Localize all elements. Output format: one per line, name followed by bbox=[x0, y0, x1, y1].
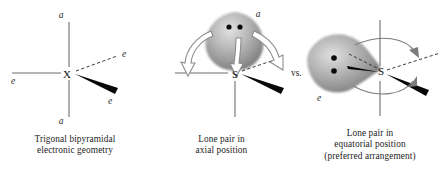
panel-trigonal-bipyramidal: X a a e e e Trigonal bipyramidal electro… bbox=[0, 0, 150, 180]
electron-dot bbox=[331, 68, 337, 74]
lone-pair-axial-structure: S a bbox=[150, 0, 293, 134]
electron-dot bbox=[331, 55, 337, 61]
vsepr-comparison-figure: X a a e e e Trigonal bipyramidal electro… bbox=[0, 0, 447, 180]
equatorial-dashed-label: e bbox=[122, 49, 126, 59]
equatorial-wedge-label: e bbox=[108, 96, 112, 106]
trigonal-bipyramidal-structure: X a a e e e bbox=[0, 0, 150, 134]
caption-trigonal-bipyramidal: Trigonal bipyramidal electronic geometry bbox=[0, 134, 150, 157]
electron-dot bbox=[237, 24, 242, 29]
panel-lone-pair-axial: S a Lone pair in axial position bbox=[150, 0, 293, 180]
center-atom-label: S bbox=[378, 65, 384, 77]
caption-line: axial position bbox=[150, 145, 293, 156]
electron-dot bbox=[226, 24, 231, 29]
center-atom-label: X bbox=[63, 68, 71, 80]
caption-lone-pair-equatorial: Lone pair in equatorial position (prefer… bbox=[293, 128, 447, 162]
axial-bottom-label: a bbox=[59, 116, 64, 126]
caption-line: equatorial position bbox=[293, 139, 447, 150]
repulsion-arrow-lower-head bbox=[409, 76, 417, 87]
equatorial-left-label: e bbox=[11, 76, 15, 86]
equatorial-bond-wedge bbox=[75, 74, 118, 94]
equatorial-bond-wedge bbox=[241, 74, 284, 94]
caption-line: electronic geometry bbox=[0, 145, 150, 156]
axial-top-label: a bbox=[256, 9, 261, 19]
lone-pair-equatorial-structure: S e bbox=[293, 0, 447, 128]
equatorial-bond-dashed bbox=[76, 56, 117, 71]
axial-top-label: a bbox=[59, 10, 64, 20]
center-atom-label: S bbox=[232, 68, 238, 80]
caption-line: Trigonal bipyramidal bbox=[0, 134, 150, 145]
repulsion-arrow-upper-head bbox=[409, 47, 419, 58]
equatorial-lone-pair-label: e bbox=[317, 93, 321, 103]
caption-lone-pair-axial: Lone pair in axial position bbox=[150, 134, 293, 157]
caption-line: Lone pair in bbox=[150, 134, 293, 145]
caption-line: (preferred arrangement) bbox=[293, 151, 447, 162]
panel-lone-pair-equatorial: S e Lone pair in equatorial position (pr… bbox=[293, 0, 447, 180]
caption-line: Lone pair in bbox=[293, 128, 447, 139]
equatorial-bond-dashed bbox=[387, 53, 440, 70]
lone-pair-lobe bbox=[307, 34, 381, 92]
